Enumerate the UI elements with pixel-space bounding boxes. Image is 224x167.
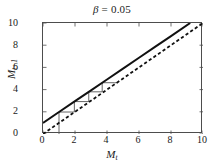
x-tick-label: 4 <box>94 135 118 145</box>
cobweb-staircase <box>59 83 117 134</box>
plot-canvas <box>43 23 203 134</box>
beta-symbol: β <box>93 3 99 15</box>
y-tick-label: 10 <box>0 18 18 28</box>
plot-area <box>42 22 202 133</box>
x-axis-label-main: M <box>106 148 115 160</box>
y-tick-label: 6 <box>0 62 18 72</box>
x-tick-label: 10 <box>190 135 214 145</box>
map-function-line <box>43 23 190 123</box>
x-axis-label-subscript: t <box>116 153 118 162</box>
x-axis-label: Mt <box>0 148 224 162</box>
y-tick-label: 4 <box>0 84 18 94</box>
x-tick-label: 0 <box>30 135 54 145</box>
y-tick-label: 2 <box>0 106 18 116</box>
chart-figure: β = 0.05 Mt+1 Mt 10 8 6 4 2 0 0 2 4 6 8 … <box>0 0 224 167</box>
identity-line <box>43 23 203 134</box>
y-tick-label: 8 <box>0 40 18 50</box>
y-tick-label: 0 <box>0 128 18 138</box>
chart-title: β = 0.05 <box>0 3 224 15</box>
x-tick-label: 8 <box>158 135 182 145</box>
x-tick-label: 6 <box>126 135 150 145</box>
x-tick-label: 2 <box>62 135 86 145</box>
title-value: = 0.05 <box>102 3 131 15</box>
